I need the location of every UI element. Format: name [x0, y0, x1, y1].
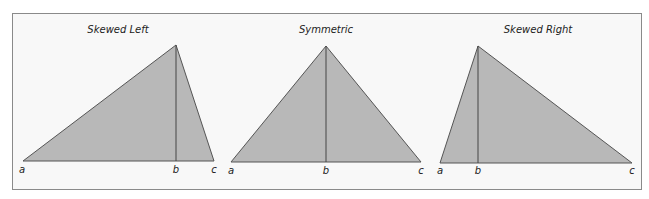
label-b: b: [475, 165, 481, 176]
label-b: b: [323, 165, 329, 176]
title-skewed-right: Skewed Right: [504, 24, 572, 35]
label-b: b: [173, 164, 179, 175]
label-a: a: [19, 164, 25, 175]
label-a: a: [228, 165, 234, 176]
panel-skewed-right: [440, 46, 632, 163]
label-c: c: [629, 165, 635, 176]
label-a: a: [437, 165, 443, 176]
title-skewed-left: Skewed Left: [87, 24, 148, 35]
triangle-skewed-right: [440, 46, 632, 163]
label-c: c: [211, 164, 217, 175]
title-symmetric: Symmetric: [299, 24, 353, 35]
triangle-skewed-left: [23, 45, 214, 161]
label-c: c: [418, 165, 424, 176]
panel-skewed-left: [23, 45, 214, 161]
panel-symmetric: [231, 46, 421, 162]
